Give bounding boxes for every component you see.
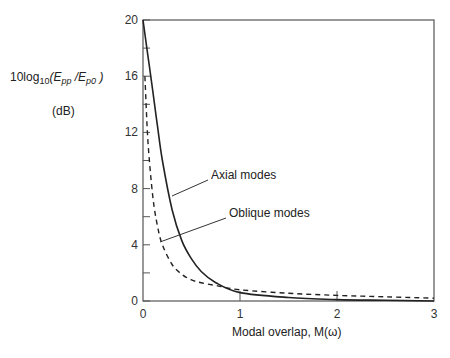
y-tick-label: 12 [125, 125, 139, 139]
y-axis-ticks: 048121620 [125, 13, 150, 308]
x-axis-label: Modal overlap, M(ω) [232, 325, 341, 339]
x-tick-label: 3 [431, 307, 438, 321]
axial-modes-curve [143, 20, 434, 301]
y-tick-label: 0 [131, 294, 138, 308]
y-tick-label: 8 [131, 182, 138, 196]
axial-modes-label: Axial modes [211, 168, 276, 182]
chart-plot: 048121620 0123 Axial modes Oblique modes [0, 0, 450, 358]
y-tick-label: 4 [131, 238, 138, 252]
plot-frame [143, 20, 434, 301]
y-tick-label: 16 [125, 69, 139, 83]
x-tick-label: 0 [140, 307, 147, 321]
axial-annotation-leader [172, 180, 208, 196]
x-tick-label: 2 [334, 307, 341, 321]
y-axis-label: 10log10(Epp /Ep0 ) [10, 70, 103, 86]
oblique-modes-curve [145, 76, 434, 298]
y-tick-label: 20 [125, 13, 139, 27]
oblique-annotation-leader [160, 218, 226, 242]
x-tick-label: 1 [237, 307, 244, 321]
x-axis-ticks: 0123 [140, 291, 438, 321]
y-axis-unit: (dB) [52, 104, 75, 118]
oblique-modes-label: Oblique modes [229, 206, 310, 220]
